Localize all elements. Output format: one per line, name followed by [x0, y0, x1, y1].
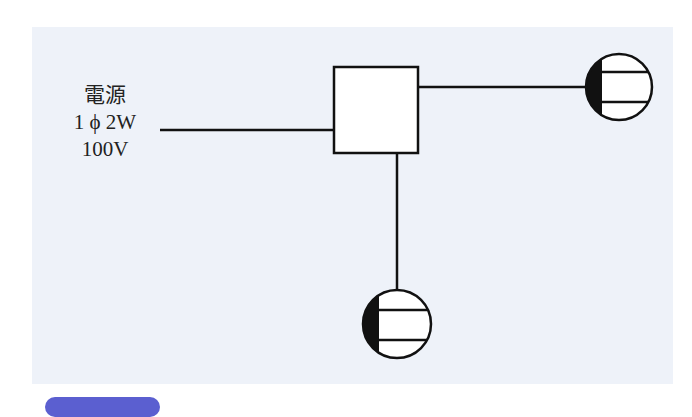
lamp-bottom-icon [362, 289, 433, 359]
section-badge [45, 397, 160, 417]
junction-box [334, 67, 418, 153]
lamp-right-icon [585, 53, 655, 123]
